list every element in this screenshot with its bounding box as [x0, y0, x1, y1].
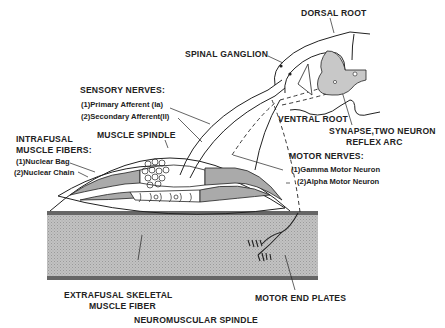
diagram-title: NEUROMUSCULAR SPINDLE	[134, 316, 258, 325]
label-muscle-spindle: MUSCLE SPINDLE	[97, 131, 176, 140]
label-synapse-line1: SYNAPSE,TWO NEURON	[329, 127, 436, 136]
nerve-bundle	[180, 80, 285, 178]
label-extrafusal-line1: EXTRAFUSAL SKELETAL	[64, 291, 173, 300]
extrafusal-muscle-fiber	[47, 211, 318, 280]
neuromuscular-spindle-diagram: DORSAL ROOT SPINAL GANGLION VENTRAL ROOT…	[0, 0, 445, 328]
label-sensory-nerves: SENSORY NERVES:	[80, 86, 165, 95]
label-primary-afferent: (1)Primary Afferent (Ia)	[81, 101, 163, 109]
label-secondary-afferent: (2)Secondary Afferent(II)	[81, 113, 169, 121]
label-intrafusal-line2: MUSCLE FIBERS:	[16, 146, 92, 155]
muscle-bottom-band	[47, 276, 318, 280]
label-gamma-motor-neuron: (1)Gamma Motor Neuron	[291, 166, 380, 174]
label-intrafusal-line1: INTRAFUSAL	[16, 135, 73, 144]
label-synapse-line2: REFLEX ARC	[346, 138, 403, 147]
label-dorsal-root: DORSAL ROOT	[301, 9, 367, 18]
label-extrafusal-line2: MUSCLE FIBER	[89, 302, 156, 311]
label-nuclear-bag: (1)Nuclear Bag	[16, 158, 70, 166]
label-nuclear-chain: (2)Nuclear Chain	[14, 169, 74, 177]
label-spinal-ganglion: SPINAL GANGLION	[185, 50, 268, 59]
label-motor-end-plates: MOTOR END PLATES	[255, 294, 346, 303]
label-ventral-root: VENTRAL ROOT	[278, 115, 348, 124]
nuclear-chain-fiber	[80, 186, 270, 202]
label-alpha-motor-neuron: (2)Alpha Motor Neuron	[297, 178, 379, 186]
label-motor-nerves: MOTOR NERVES:	[289, 152, 364, 161]
